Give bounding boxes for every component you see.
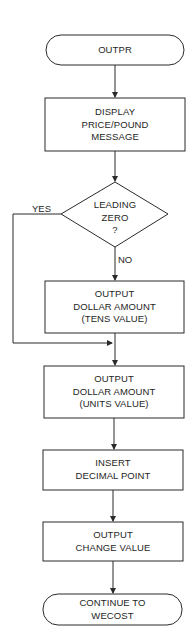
decision-diamond-label: LEADING ZERO ? bbox=[75, 199, 155, 237]
no-edge-label: NO bbox=[118, 254, 132, 265]
decimal-box-label: INSERT DECIMAL POINT bbox=[43, 457, 183, 482]
yes-edge-label: YES bbox=[32, 203, 51, 214]
tens-box-label: OUTPUT DOLLAR AMOUNT (TENS VALUE) bbox=[45, 288, 184, 326]
start-terminal-label: OUTPR bbox=[46, 44, 184, 57]
end-terminal-label: CONTINUE TO WECOST bbox=[43, 597, 182, 622]
units-box-label: OUTPUT DOLLAR AMOUNT (UNITS VALUE) bbox=[44, 373, 184, 411]
change-box-label: OUTPUT CHANGE VALUE bbox=[43, 529, 183, 554]
display-box-label: DISPLAY PRICE/POUND MESSAGE bbox=[45, 106, 185, 144]
